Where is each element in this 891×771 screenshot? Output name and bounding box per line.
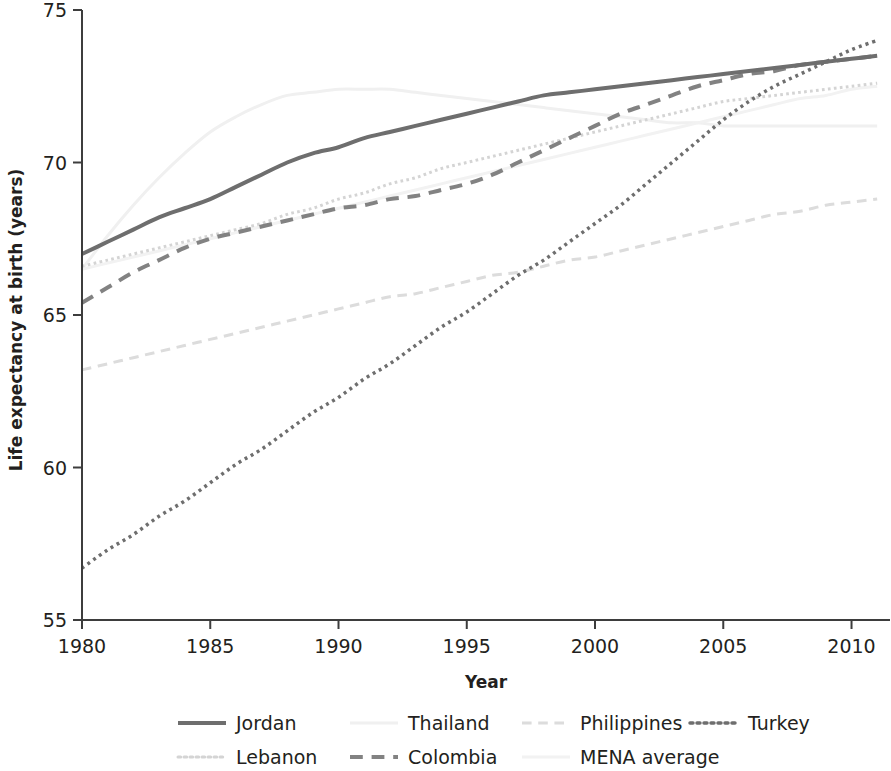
y-tick-label: 70 bbox=[43, 152, 67, 174]
legend-label: Turkey bbox=[747, 712, 810, 734]
y-tick-label: 55 bbox=[43, 609, 67, 631]
x-tick-label: 1995 bbox=[443, 635, 491, 657]
legend-item-thailand[interactable]: Thailand bbox=[350, 712, 490, 734]
series-layer bbox=[82, 41, 877, 569]
legend-label: Jordan bbox=[235, 712, 296, 734]
legend-label: Lebanon bbox=[236, 746, 317, 768]
legend-label: MENA average bbox=[580, 746, 719, 768]
legend-label: Philippines bbox=[580, 712, 682, 734]
y-tick-label: 75 bbox=[43, 0, 67, 21]
legend-item-turkey[interactable]: Turkey bbox=[690, 712, 810, 734]
x-tick-label: 2005 bbox=[699, 635, 747, 657]
legend-label: Colombia bbox=[408, 746, 497, 768]
chart-canvas: 55606570751980198519901995200020052010 L… bbox=[0, 0, 891, 771]
series-line-jordan bbox=[82, 56, 877, 254]
legend-item-lebanon[interactable]: Lebanon bbox=[178, 746, 317, 768]
x-axis-title: Year bbox=[464, 672, 508, 692]
series-line-colombia bbox=[82, 56, 877, 303]
legend-item-colombia[interactable]: Colombia bbox=[350, 746, 497, 768]
x-tick-label: 2000 bbox=[571, 635, 619, 657]
legend-item-jordan[interactable]: Jordan bbox=[178, 712, 296, 734]
y-tick-label: 65 bbox=[43, 304, 67, 326]
chart-legend: JordanThailandPhilippinesTurkeyLebanonCo… bbox=[178, 712, 810, 768]
plot-area bbox=[82, 41, 877, 569]
x-tick-label: 1990 bbox=[314, 635, 362, 657]
y-axis-title: Life expectancy at birth (years) bbox=[6, 169, 26, 472]
series-line-philippines bbox=[82, 199, 877, 370]
life-expectancy-line-chart: 55606570751980198519901995200020052010 L… bbox=[0, 0, 891, 771]
x-tick-label: 1980 bbox=[58, 635, 106, 657]
x-tick-label: 1985 bbox=[186, 635, 234, 657]
y-tick-label: 60 bbox=[43, 457, 67, 479]
x-tick-label: 2010 bbox=[827, 635, 875, 657]
legend-item-philippines[interactable]: Philippines bbox=[522, 712, 682, 734]
legend-item-mena-average[interactable]: MENA average bbox=[522, 746, 719, 768]
legend-label: Thailand bbox=[407, 712, 490, 734]
series-line-turkey bbox=[82, 41, 877, 569]
